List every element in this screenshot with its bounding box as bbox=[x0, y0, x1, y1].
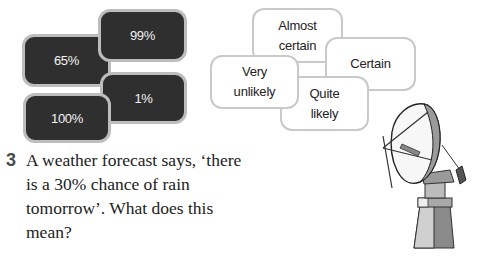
phrase-card-text: Quitelikely bbox=[309, 84, 339, 124]
phrase-line-1: Very bbox=[242, 64, 267, 79]
question-number: 3 bbox=[6, 148, 16, 172]
satellite-dish-icon bbox=[380, 100, 482, 257]
phrase-line-2: certain bbox=[279, 38, 317, 53]
phrase-line-1: Almost bbox=[278, 18, 317, 33]
phrase-card-text: Certain bbox=[350, 54, 391, 74]
percent-card-label: 1% bbox=[134, 91, 152, 106]
phrase-line-1: Quite bbox=[309, 86, 339, 101]
question-text: A weather forecast says, ‘there is a 30%… bbox=[26, 148, 256, 244]
percent-card-99: 99% bbox=[98, 9, 187, 62]
phrase-card-text: Almostcertain bbox=[278, 16, 317, 56]
phrase-line-2: likely bbox=[311, 106, 339, 121]
percent-card-1: 1% bbox=[100, 72, 187, 124]
percent-card-label: 65% bbox=[54, 53, 79, 68]
phrase-card-very-unlikely: Veryunlikely bbox=[210, 55, 299, 109]
phrase-card-text: Veryunlikely bbox=[234, 62, 276, 102]
percent-card-label: 99% bbox=[130, 28, 155, 43]
percent-card-100: 100% bbox=[23, 93, 111, 143]
phrase-line-2: unlikely bbox=[234, 84, 276, 99]
percent-card-label: 100% bbox=[51, 111, 83, 126]
question-3: 3 A weather forecast says, ‘there is a 3… bbox=[6, 148, 256, 244]
